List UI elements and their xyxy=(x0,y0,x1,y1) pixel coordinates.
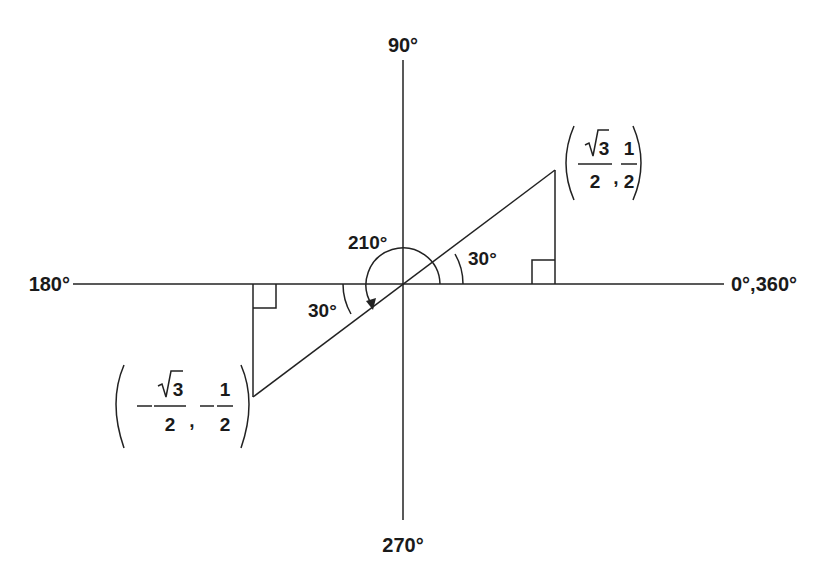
label-90: 90° xyxy=(388,34,418,56)
lower-reference-angle-arc xyxy=(343,284,351,314)
diagram-canvas: 90° 270° 180° 0°,360° 210° 30° 30° 3 2 ,… xyxy=(0,0,824,576)
label-lower-30-angle: 30° xyxy=(308,300,337,321)
label-upper-30-angle: 30° xyxy=(468,248,497,269)
upper-y-denominator: 2 xyxy=(624,171,635,192)
lower-x-denominator: 2 xyxy=(165,414,176,435)
lower-right-angle-marker xyxy=(253,284,276,308)
lower-right-paren xyxy=(241,365,249,448)
label-180: 180° xyxy=(29,273,70,295)
upper-x-denominator: 2 xyxy=(590,171,601,192)
upper-reference-angle-arc xyxy=(455,254,463,284)
lower-y-denominator: 2 xyxy=(220,414,231,435)
upper-x-numerator: 3 xyxy=(599,138,610,159)
upper-y-numerator: 1 xyxy=(624,138,635,159)
lower-y-numerator: 1 xyxy=(220,379,231,400)
upper-point-coordinates: 3 2 , 1 2 xyxy=(566,126,641,200)
upper-left-paren xyxy=(566,126,574,200)
lower-separator: , xyxy=(189,410,194,431)
lower-point-coordinates: 3 2 , 1 2 xyxy=(116,365,249,448)
label-210-angle: 210° xyxy=(348,232,387,253)
upper-separator: , xyxy=(613,167,618,188)
lower-left-paren xyxy=(116,365,124,448)
lower-x-numerator: 3 xyxy=(173,379,184,400)
upper-right-angle-marker xyxy=(532,260,555,284)
label-270: 270° xyxy=(382,534,423,556)
label-0-360: 0°,360° xyxy=(731,273,797,295)
